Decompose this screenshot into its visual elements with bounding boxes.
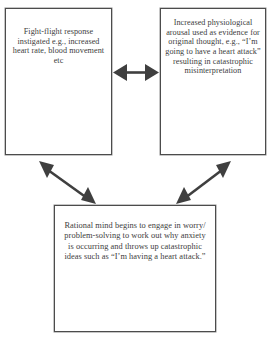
box-fight-flight-text: Fight-flight response instigated e.g., i… — [6, 27, 111, 66]
box-rational-mind: Rational mind begins to engage in worry/… — [54, 205, 216, 332]
box-fight-flight: Fight-flight response instigated e.g., i… — [5, 8, 112, 155]
arrow-fight-flight-arousal — [113, 64, 159, 81]
box-physiological-arousal: Increased physiological arousal used as … — [160, 8, 266, 155]
arrow-arousal-rational — [176, 161, 231, 204]
diagram-canvas: Fight-flight response instigated e.g., i… — [0, 0, 271, 342]
box-physiological-arousal-text: Increased physiological arousal used as … — [161, 18, 265, 76]
box-rational-mind-text: Rational mind begins to engage in worry/… — [55, 221, 215, 262]
arrow-fight-flight-rational — [39, 161, 96, 204]
